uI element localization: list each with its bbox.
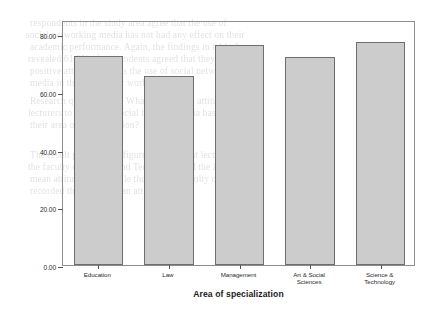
x-axis-tick-mark xyxy=(169,265,170,269)
x-axis-category-label-line: Science & xyxy=(344,271,415,278)
bar xyxy=(356,42,405,265)
x-axis-category-label: Law xyxy=(133,271,204,278)
y-axis-tick-label: 40.00 xyxy=(40,148,56,155)
y-axis-tick-mark xyxy=(58,209,63,210)
x-axis-category-label-line: Technology xyxy=(344,278,415,285)
x-axis-category-label-line: Law xyxy=(133,271,204,278)
y-axis-tick-label: 20.00 xyxy=(40,206,56,213)
x-axis-tick-mark xyxy=(98,265,99,269)
plot-area-frame: 0.0020.0040.0060.0080.00 xyxy=(62,21,415,266)
y-axis-tick-label: 60.00 xyxy=(40,91,56,98)
x-axis-tick-mark xyxy=(381,265,382,269)
x-axis-category-label-line: Management xyxy=(203,271,274,278)
bar xyxy=(144,76,193,265)
y-axis-tick-label: 80.00 xyxy=(40,33,56,40)
plot-inner: 0.0020.0040.0060.0080.00 xyxy=(63,22,414,265)
y-axis-tick-mark xyxy=(58,152,63,153)
x-axis-tick-mark xyxy=(240,265,241,269)
y-axis-tick-mark xyxy=(58,94,63,95)
x-axis-title: Area of specialization xyxy=(62,289,415,299)
y-axis-tick-mark xyxy=(58,36,63,37)
bar-chart-figure: Mean Attitude of lecturers to social net… xyxy=(0,0,434,311)
y-axis-tick-mark xyxy=(58,267,63,268)
bar xyxy=(215,45,264,266)
bar xyxy=(74,56,123,265)
x-axis-category-label-line: Education xyxy=(62,271,133,278)
x-axis-category-label-line: Art & Social xyxy=(274,271,345,278)
x-axis-category-label: Education xyxy=(62,271,133,278)
x-axis-tick-mark xyxy=(310,265,311,269)
x-axis-category-label-line: Sciences xyxy=(274,278,345,285)
x-axis-category-label: Art & SocialSciences xyxy=(274,271,345,286)
y-axis-tick-label: 0.00 xyxy=(44,264,56,271)
x-axis-category-label: Management xyxy=(203,271,274,278)
bar xyxy=(285,57,334,265)
x-axis-category-label: Science &Technology xyxy=(344,271,415,286)
